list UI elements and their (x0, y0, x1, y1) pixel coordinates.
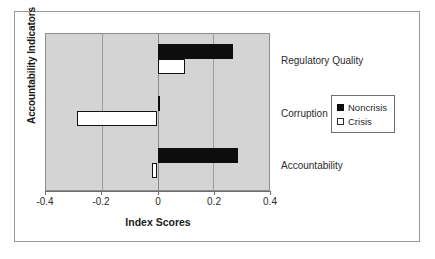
legend-item-noncrisis: Noncrisis (337, 100, 387, 114)
bar-accountability-noncrisis (158, 148, 239, 163)
legend-label-noncrisis: Noncrisis (348, 102, 387, 113)
chart-legend: Noncrisis Crisis (331, 95, 395, 133)
x-tick-mark-4 (270, 191, 271, 195)
bar-corruption-crisis (77, 111, 158, 126)
category-label-regulatory-quality: Regulatory Quality (281, 55, 363, 66)
x-tick-mark-2 (158, 191, 159, 195)
bar-accountability-crisis (152, 163, 158, 178)
bar-regulatory-quality-noncrisis (158, 44, 233, 59)
bar-regulatory-quality-crisis (158, 59, 186, 74)
category-label-accountability: Accountability (281, 160, 343, 171)
x-tick-mark-3 (214, 191, 215, 195)
plot-area (45, 33, 270, 191)
x-tick-label-3: 0.2 (192, 196, 236, 207)
x-axis-title: Index Scores (45, 216, 271, 228)
legend-label-crisis: Crisis (348, 116, 372, 127)
y-axis-title: Accountability Indicators (26, 0, 37, 141)
x-tick-label-0: -0.4 (23, 196, 67, 207)
chart-figure: Accountability Indicators -0.4 -0.2 0 0.… (0, 0, 435, 259)
x-tick-label-2: 0 (136, 196, 180, 207)
x-tick-label-4: 0.4 (248, 196, 292, 207)
legend-item-crisis: Crisis (337, 114, 387, 128)
x-tick-mark-1 (101, 191, 102, 195)
category-label-corruption: Corruption (281, 108, 328, 119)
open-square-icon (337, 118, 344, 125)
x-tick-mark-0 (45, 191, 46, 195)
filled-square-icon (337, 104, 344, 111)
bar-corruption-noncrisis (158, 96, 161, 111)
x-tick-label-1: -0.2 (79, 196, 123, 207)
